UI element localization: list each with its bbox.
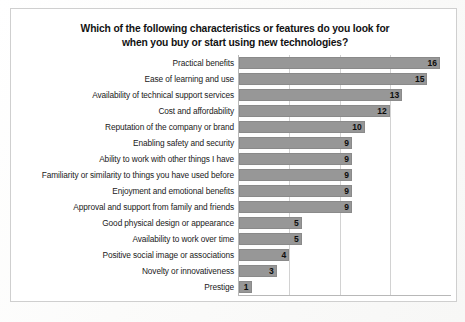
chart-title-line-2: when you buy or start using new technolo…: [35, 36, 435, 50]
bar-value-label: 15: [239, 72, 424, 86]
bar-row: 13: [239, 88, 451, 103]
chart-frame: Which of the following characteristics o…: [10, 8, 457, 302]
bar-row: 12: [239, 104, 451, 119]
plot-wrapper: Practical benefitsEase of learning and u…: [27, 55, 450, 295]
category-label: Availability of technical support servic…: [92, 88, 234, 103]
bar-value-label: 12: [239, 104, 387, 118]
bar-row: 5: [239, 232, 451, 247]
category-label: Reputation of the company or brand: [105, 120, 234, 135]
category-label: Prestige: [204, 280, 234, 295]
bar-value-label: 5: [239, 216, 299, 230]
category-label: Ability to work with other things I have: [99, 152, 234, 167]
bar-row: 1: [239, 280, 451, 295]
bar-value-label: 5: [239, 232, 299, 246]
bar-value-label: 9: [239, 168, 349, 182]
plot-area: 16151312109999955431: [238, 55, 451, 296]
bar-row: 15: [239, 72, 451, 87]
category-label: Enjoyment and emotional benefits: [112, 184, 234, 199]
chart-title: Which of the following characteristics o…: [35, 22, 435, 49]
bar-value-label: 9: [239, 136, 349, 150]
category-label: Ease of learning and use: [145, 72, 234, 87]
bar-row: 9: [239, 152, 451, 167]
category-label: Practical benefits: [173, 56, 234, 71]
category-label: Familiarity or similarity to things you …: [42, 168, 234, 183]
bar-row: 9: [239, 136, 451, 151]
bar-value-label: 16: [239, 56, 437, 70]
category-label: Novelty or innovativeness: [142, 264, 234, 279]
category-label: Availability to work over time: [132, 232, 234, 247]
bar-row: 5: [239, 216, 451, 231]
bar-row: 9: [239, 184, 451, 199]
chart-title-line-1: Which of the following characteristics o…: [35, 22, 435, 36]
bar-value-label: 9: [239, 200, 349, 214]
bar-value-label: 10: [239, 120, 362, 134]
chart-screenshot: Which of the following characteristics o…: [0, 0, 465, 322]
category-label: Positive social image or associations: [103, 248, 234, 263]
bar-row: 4: [239, 248, 451, 263]
bar-value-label: 1: [239, 280, 249, 294]
bar-value-label: 9: [239, 152, 349, 166]
category-label: Cost and affordability: [158, 104, 234, 119]
bar-row: 9: [239, 168, 451, 183]
bar-value-label: 13: [239, 88, 399, 102]
category-axis: Practical benefitsEase of learning and u…: [27, 55, 238, 295]
bar-row: 9: [239, 200, 451, 215]
category-label: Enabling safety and security: [133, 136, 234, 151]
bar-row: 3: [239, 264, 451, 279]
bar-value-label: 9: [239, 184, 349, 198]
bar-value-label: 4: [239, 248, 286, 262]
category-label: Good physical design or appearance: [102, 216, 234, 231]
bar-value-label: 3: [239, 264, 274, 278]
bar-row: 16: [239, 56, 451, 71]
category-label: Approval and support from family and fri…: [73, 200, 234, 215]
bar-row: 10: [239, 120, 451, 135]
